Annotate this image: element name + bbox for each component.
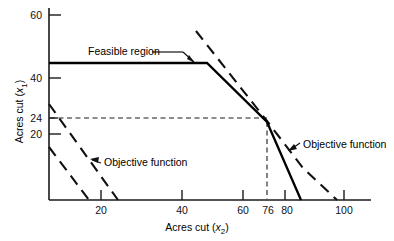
x-tick-label-76: 76 — [262, 205, 274, 216]
y-axis-subscript: 1 — [20, 83, 29, 87]
x-tick-label-100: 100 — [335, 205, 353, 216]
y-axis-variable: x — [13, 88, 25, 93]
objective-left-arrowhead — [90, 157, 99, 163]
y-tick-label-60: 60 — [16, 10, 42, 21]
objective-right-arrowhead — [288, 144, 297, 151]
objective-line-lower — [49, 147, 89, 200]
feasible-boundary-line — [49, 63, 301, 200]
chart-figure: 60 40 24 20 20 40 60 76 80 100 Feasible … — [0, 0, 394, 241]
y-axis-title: Acres cut (x1) — [13, 69, 28, 155]
y-axis-ticks — [49, 15, 61, 134]
annotation-feasible-region: Feasible region — [88, 45, 160, 57]
x-tick-label-20: 20 — [95, 205, 107, 216]
x-tick-label-60: 60 — [237, 205, 249, 216]
x-axis-ticks — [101, 190, 344, 200]
annotation-objective-function-left: Objective function — [104, 156, 187, 168]
annotation-objective-function-right: Objective function — [303, 138, 386, 150]
x-tick-label-80: 80 — [281, 205, 293, 216]
x-axis-title: Acres cut (x2) — [0, 221, 394, 236]
x-tick-label-40: 40 — [176, 205, 188, 216]
